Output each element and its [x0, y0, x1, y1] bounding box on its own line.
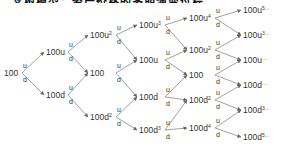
node-value: 100d: [243, 105, 262, 115]
node-value: 100u: [139, 20, 158, 30]
node-exponent: 3: [158, 20, 161, 26]
up-label: u: [166, 119, 170, 127]
up-label: u: [69, 41, 73, 49]
node-exponent: 4: [208, 13, 211, 19]
node-exponent: 5…: [262, 5, 270, 11]
down-label: d: [216, 21, 220, 29]
node-value: 100d: [189, 123, 208, 133]
node-value: 100d: [243, 132, 262, 142]
down-label: d: [69, 98, 73, 106]
node-value: 100d: [139, 92, 158, 102]
node-value: 100: [4, 68, 18, 78]
tree-node: 100u: [46, 47, 65, 57]
tree-node: 100: [189, 70, 203, 80]
up-label: u: [117, 24, 121, 32]
down-label: d: [166, 133, 170, 141]
tree-node: 100: [4, 68, 18, 78]
node-exponent: …: [262, 80, 267, 86]
tree-node: 100d5…: [243, 132, 270, 142]
up-label: u: [166, 14, 170, 22]
node-value: 100: [189, 70, 203, 80]
down-label: d: [216, 131, 220, 139]
up-label: u: [216, 39, 220, 47]
tree-node: 100d: [139, 92, 158, 102]
down-label: d: [69, 55, 73, 63]
tree-node: 100u5…: [243, 5, 270, 15]
up-label: u: [166, 86, 170, 94]
up-label: u: [117, 106, 121, 114]
node-value: 100d: [139, 125, 158, 135]
node-exponent: 3…: [262, 105, 270, 111]
up-label: u: [117, 62, 121, 70]
tree-node: 100u…: [243, 55, 267, 65]
tree-node: 100u3…: [243, 30, 270, 40]
tree-node: 100: [90, 68, 104, 78]
tree-node: 100d2: [90, 112, 112, 122]
up-label: u: [166, 49, 170, 57]
node-value: 100d: [90, 112, 109, 122]
tree-node: 100d3: [139, 125, 161, 135]
tree-node: 100d: [46, 90, 65, 100]
up-label: u: [216, 89, 220, 97]
node-value: 100d: [243, 80, 262, 90]
up-label: u: [216, 64, 220, 72]
tree-node: 100u4: [189, 13, 211, 23]
node-exponent: 2: [208, 95, 211, 101]
node-value: 100d: [46, 90, 65, 100]
up-label: u: [216, 7, 220, 15]
down-label: d: [117, 120, 121, 128]
node-exponent: 2: [208, 45, 211, 51]
node-value: 100u: [189, 45, 208, 55]
node-value: 100u: [46, 47, 65, 57]
up-label: u: [216, 117, 220, 125]
tree-node: 100u3: [139, 20, 161, 30]
tree-node: 100d2: [189, 95, 211, 105]
tree-node: 100u2: [90, 30, 112, 40]
node-value: 100: [90, 68, 104, 78]
node-exponent: 4: [208, 123, 211, 129]
node-value: 100u: [243, 5, 262, 15]
node-exponent: 5…: [262, 132, 270, 138]
down-label: d: [216, 53, 220, 61]
node-value: 100u: [139, 55, 158, 65]
down-label: d: [166, 100, 170, 108]
up-label: u: [69, 84, 73, 92]
tree-node: 100u: [139, 55, 158, 65]
node-exponent: 2: [109, 30, 112, 36]
tree-node: 100u2: [189, 45, 211, 55]
node-exponent: …: [262, 55, 267, 61]
node-value: 100u: [243, 30, 262, 40]
up-label: u: [23, 62, 27, 70]
down-label: d: [216, 103, 220, 111]
down-label: d: [23, 76, 27, 84]
node-value: 100u: [189, 13, 208, 23]
node-exponent: 2: [109, 112, 112, 118]
tree-node: 100d4: [189, 123, 211, 133]
tree-node: 100d3…: [243, 105, 270, 115]
down-label: d: [166, 63, 170, 71]
node-exponent: 3: [158, 125, 161, 131]
down-label: d: [117, 38, 121, 46]
down-label: d: [166, 28, 170, 36]
node-value: 100u: [243, 55, 262, 65]
node-exponent: 3…: [262, 30, 270, 36]
down-label: d: [216, 78, 220, 86]
down-label: d: [117, 76, 121, 84]
tree-node: 100d…: [243, 80, 267, 90]
down-edge: [165, 128, 187, 130]
node-value: 100u: [90, 30, 109, 40]
node-value: 100d: [189, 95, 208, 105]
